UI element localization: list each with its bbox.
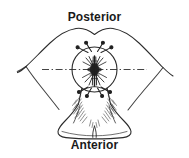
anterior-bulb-outline: [58, 104, 131, 139]
figure-canvas: Posterior Anterior: [0, 0, 189, 158]
isthmus-outline: [79, 88, 111, 104]
orientation-label-posterior: Posterior: [0, 10, 189, 24]
orientation-label-anterior: Anterior: [0, 138, 189, 152]
subcircle-arc-connectors: [80, 87, 110, 92]
radiating-nerve-bundle: [83, 56, 107, 86]
